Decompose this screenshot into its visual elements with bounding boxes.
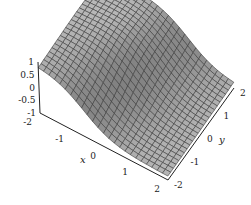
y-tick-label: -2	[174, 180, 183, 190]
x-tick-label: 0	[90, 151, 96, 161]
x-tick-label: 1	[122, 167, 128, 177]
y-tick-label: 0	[207, 134, 213, 144]
x-tick-label: 2	[154, 184, 160, 194]
z-tick-label: 0	[29, 83, 35, 93]
surface-mesh	[38, 0, 234, 176]
z-tick-label: 1	[28, 57, 34, 67]
x-tick-label: -1	[55, 134, 64, 144]
surface-plot: 10.50-0.5-1-2-1012-2-1012 x y	[0, 0, 251, 205]
y-tick-label: -1	[191, 157, 200, 167]
y-tick-label: 2	[240, 88, 246, 98]
z-axis-line	[38, 62, 40, 113]
z-tick-label: 0.5	[20, 70, 35, 80]
x-tick-label: -2	[23, 117, 32, 127]
z-tick-label: -0.5	[18, 95, 36, 105]
y-tick-label: 1	[224, 111, 230, 121]
y-axis-label: y	[218, 134, 225, 145]
x-axis-label: x	[80, 154, 86, 165]
